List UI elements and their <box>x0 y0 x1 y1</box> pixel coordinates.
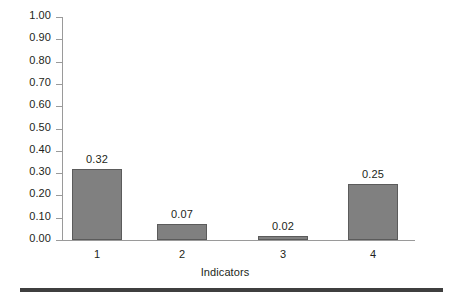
x-axis-tick-label: 2 <box>157 248 207 260</box>
y-axis-tick-label: 0.90 <box>29 31 51 43</box>
bar-chart-figure: 1.000.900.800.700.600.500.400.300.200.10… <box>0 0 450 302</box>
x-axis-tick-label: 3 <box>258 248 308 260</box>
y-axis-tick-label: 0.10 <box>29 210 51 222</box>
bar-value-label: 0.07 <box>157 208 207 220</box>
bottom-divider-rule <box>20 288 443 292</box>
bar[interactable] <box>72 169 122 240</box>
bar-value-label: 0.32 <box>72 153 122 165</box>
y-axis-tick-label: 0.40 <box>29 143 51 155</box>
x-axis-tick-label: 4 <box>348 248 398 260</box>
plot-area: 0.320.070.020.25 <box>62 17 415 240</box>
y-axis-tick-label: 0.80 <box>29 54 51 66</box>
x-axis-tick-label: 1 <box>72 248 122 260</box>
bar[interactable] <box>258 236 308 240</box>
x-axis-title: Indicators <box>0 266 450 278</box>
bar[interactable] <box>348 184 398 240</box>
y-axis-tick-label: 0.60 <box>29 98 51 110</box>
bar-value-label: 0.25 <box>348 168 398 180</box>
y-axis-tick-mark <box>56 240 62 241</box>
y-axis-tick-label: 0.20 <box>29 187 51 199</box>
bar[interactable] <box>157 224 207 240</box>
y-axis-tick-label: 0.30 <box>29 165 51 177</box>
y-axis-tick-label: 0.00 <box>29 232 51 244</box>
y-axis-tick-label: 0.70 <box>29 76 51 88</box>
x-axis-line <box>62 240 415 241</box>
y-axis-tick-label: 0.50 <box>29 121 51 133</box>
y-axis-tick-label: 1.00 <box>29 9 51 21</box>
bar-value-label: 0.02 <box>258 220 308 232</box>
